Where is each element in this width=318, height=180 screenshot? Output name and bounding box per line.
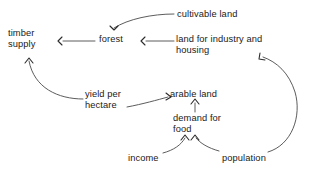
edge-income-to-demand-for-food	[163, 135, 189, 153]
node-forest: forest	[99, 34, 123, 45]
node-timber-supply: timber supply	[8, 28, 35, 51]
node-population: population	[222, 153, 266, 164]
node-demand-for-food: demand for food	[173, 113, 221, 136]
edge-line	[29, 61, 83, 99]
arrowhead-icon	[141, 37, 145, 45]
node-land-for-industry-and-housing: land for industry and housing	[176, 34, 262, 57]
edge-population-to-demand-for-food	[191, 135, 219, 151]
node-cultivable-land: cultivable land	[177, 9, 237, 20]
node-arable-land: arable land	[170, 89, 217, 100]
arrow-layer	[0, 0, 318, 180]
edge-yield-per-hectare-to-timber-supply	[25, 58, 83, 99]
edge-cultivable-land-to-forest	[110, 14, 174, 30]
edge-population-to-land-for-industry	[259, 53, 297, 152]
edge-line	[127, 97, 168, 107]
edge-yield-per-hectare-to-arable-land	[127, 93, 171, 107]
node-income: income	[128, 153, 159, 164]
edge-land-for-industry-to-forest	[141, 37, 174, 45]
arrowhead-icon	[58, 37, 62, 45]
edge-line	[163, 138, 185, 153]
node-yield-per-hectare: yield per hectare	[85, 89, 121, 112]
edge-forest-to-timber-supply	[58, 37, 95, 45]
edge-line	[114, 14, 174, 28]
edge-line	[263, 57, 297, 152]
edge-demand-for-food-to-arable-land	[191, 99, 199, 112]
causal-loop-diagram: timber supply forest cultivable land lan…	[0, 0, 318, 180]
